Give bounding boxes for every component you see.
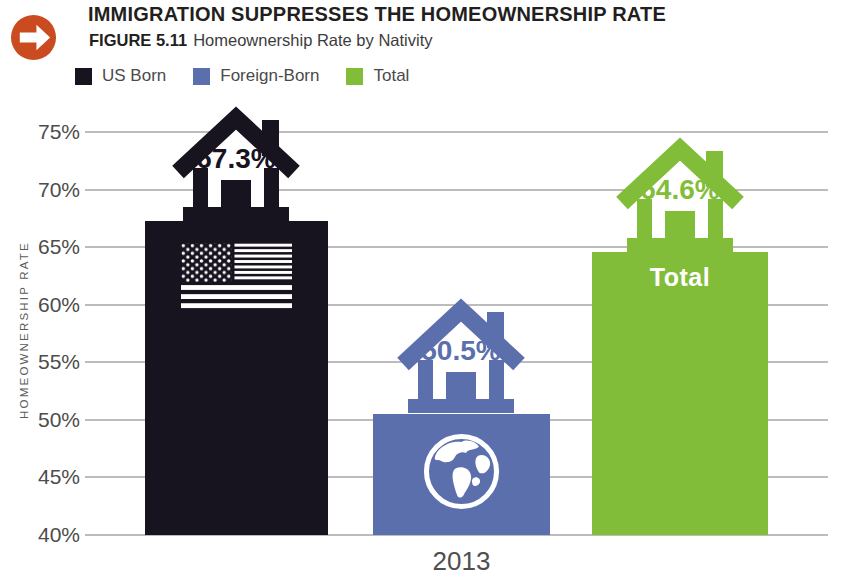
x-tick-2013: 2013	[373, 546, 550, 577]
figure-5-11: IMMIGRATION SUPPRESSES THE HOMEOWNERSHIP…	[0, 0, 851, 578]
y-tick-65: 65%	[18, 235, 80, 259]
bar-total	[592, 252, 768, 535]
house-icon-us-born: 67.3%	[166, 106, 306, 222]
y-tick-50: 50%	[18, 408, 80, 432]
right-arrow-icon	[10, 14, 57, 61]
legend-item-total: Total	[346, 66, 409, 86]
y-tick-45: 45%	[18, 465, 80, 489]
y-tick-40: 40%	[18, 523, 80, 547]
y-axis-title: HOMEOWNERSHIP RATE	[18, 241, 30, 419]
legend-swatch-foreign-born	[193, 68, 210, 85]
figure-subtitle: Homeownership Rate by Nativity	[193, 31, 432, 49]
legend-swatch-total	[346, 68, 363, 85]
bar-total-inside-label: Total	[592, 263, 768, 292]
globe-icon	[420, 430, 503, 513]
value-label-foreign-born: 50.5%	[421, 335, 500, 366]
legend-swatch-us-born	[75, 68, 92, 85]
figure-label: FIGURE 5.11	[89, 31, 187, 49]
legend-label: Foreign-Born	[220, 66, 319, 86]
y-tick-60: 60%	[18, 293, 80, 317]
legend-item-foreign-born: Foreign-Born	[193, 66, 319, 86]
y-tick-55: 55%	[18, 350, 80, 374]
y-tick-70: 70%	[18, 178, 80, 202]
house-icon-total: 64.6%	[610, 137, 750, 253]
legend-label: US Born	[102, 66, 166, 86]
us-flag-icon	[181, 243, 292, 311]
value-label-total: 64.6%	[640, 174, 719, 205]
value-label-us-born: 67.3%	[196, 143, 275, 174]
legend-label: Total	[373, 66, 409, 86]
house-icon-foreign-born: 50.5%	[391, 298, 531, 414]
figure-caption: FIGURE 5.11Homeownership Rate by Nativit…	[89, 31, 432, 50]
chart-legend: US Born Foreign-Born Total	[75, 66, 409, 86]
y-tick-75: 75%	[18, 120, 80, 144]
legend-item-us-born: US Born	[75, 66, 166, 86]
page-title: IMMIGRATION SUPPRESSES THE HOMEOWNERSHIP…	[88, 3, 666, 26]
